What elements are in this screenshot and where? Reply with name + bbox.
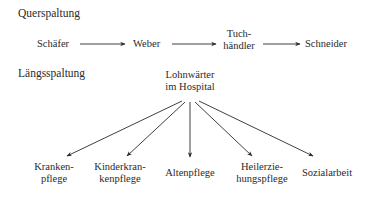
- arrow-to-kinderkrankenpflege: [127, 102, 185, 156]
- node-heilerziehungspflege-line1: Heilerzie-: [236, 161, 287, 173]
- node-lohnwaerter: Lohnwärter im Hospital: [165, 69, 214, 93]
- node-heilerziehungspflege: Heilerzie- hungspflege: [236, 161, 287, 185]
- node-sozialarbeit: Sozialarbeit: [302, 167, 352, 179]
- node-lohnwaerter-line1: Lohnwärter: [165, 69, 214, 81]
- arrow-to-sozialarbeit: [199, 101, 313, 156]
- node-weber: Weber: [133, 38, 160, 50]
- node-schaefer: Schäfer: [37, 38, 69, 50]
- node-altenpflege: Altenpflege: [165, 167, 215, 179]
- node-krankenpflege: Kranken- pflege: [34, 161, 74, 185]
- arrow-to-heilerziehungspflege: [195, 102, 252, 156]
- node-schneider: Schneider: [305, 38, 347, 50]
- node-tuchhaendler: Tuch- händler: [223, 28, 255, 52]
- node-lohnwaerter-line2: im Hospital: [165, 81, 214, 93]
- section-title-laengsspaltung: Längsspaltung: [18, 67, 85, 79]
- node-krankenpflege-line2: pflege: [34, 173, 74, 185]
- node-heilerziehungspflege-line2: hungspflege: [236, 173, 287, 185]
- node-kinderkrankenpflege-line2: kenpflege: [94, 173, 145, 185]
- section-title-querspaltung: Querspaltung: [18, 7, 80, 19]
- arrow-to-krankenpflege: [67, 101, 182, 156]
- node-krankenpflege-line1: Kranken-: [34, 161, 74, 173]
- node-tuchhaendler-line1: Tuch-: [223, 28, 255, 40]
- node-kinderkrankenpflege: Kinderkran- kenpflege: [94, 161, 145, 185]
- node-kinderkrankenpflege-line1: Kinderkran-: [94, 161, 145, 173]
- node-tuchhaendler-line2: händler: [223, 40, 255, 52]
